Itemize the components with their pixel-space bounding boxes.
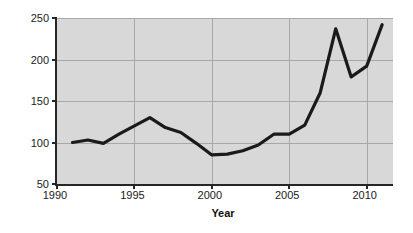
y-tick-label-100: 100 (21, 137, 49, 149)
x-tick-mark-2010 (366, 184, 368, 189)
y-tick-mark-150 (52, 100, 57, 102)
y-tick-label-150: 150 (21, 95, 49, 107)
y-tick-mark-100 (52, 142, 57, 144)
chart-figure: 50100150200250 19901995200020052010 Glob… (0, 0, 413, 233)
x-tick-mark-2005 (288, 184, 290, 189)
x-tick-label-2005: 2005 (267, 189, 307, 201)
y-tick-mark-200 (52, 59, 57, 61)
x-axis-title: Year (55, 207, 391, 219)
x-tick-label-1995: 1995 (112, 189, 152, 201)
y-tick-label-50: 50 (21, 178, 49, 190)
x-tick-mark-1990 (56, 184, 58, 189)
y-tick-label-200: 200 (21, 54, 49, 66)
x-tick-label-2000: 2000 (190, 189, 230, 201)
x-tick-label-1990: 1990 (35, 189, 75, 201)
x-tick-mark-2000 (211, 184, 213, 189)
plot-area (55, 18, 393, 186)
x-tick-label-2010: 2010 (345, 189, 385, 201)
y-tick-mark-250 (52, 17, 57, 19)
x-tick-mark-1995 (133, 184, 135, 189)
line-series-global-consumption-price-index (57, 18, 393, 184)
y-tick-label-250: 250 (21, 12, 49, 24)
